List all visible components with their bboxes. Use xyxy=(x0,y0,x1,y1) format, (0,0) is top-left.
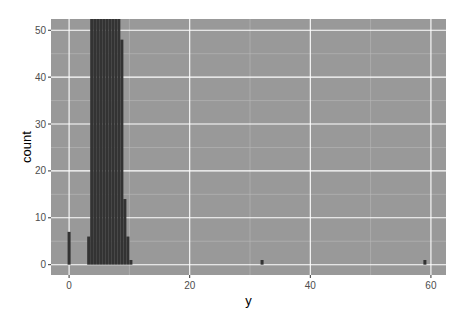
histogram-bar xyxy=(68,232,71,265)
x-tick-label: 20 xyxy=(184,280,196,291)
x-tick-label: 0 xyxy=(66,280,72,291)
y-tick-label: 10 xyxy=(35,212,47,223)
histogram-bar xyxy=(117,19,120,265)
y-tick-label: 40 xyxy=(35,72,47,83)
histogram-bar xyxy=(99,19,102,265)
x-tick-label: 60 xyxy=(425,280,437,291)
histogram-bar xyxy=(123,199,126,265)
y-axis: 01020304050 xyxy=(35,25,51,270)
x-tick-label: 40 xyxy=(305,280,317,291)
histogram-bar xyxy=(93,19,96,265)
y-tick-label: 20 xyxy=(35,165,47,176)
histogram-bar xyxy=(105,19,108,265)
histogram-bar xyxy=(261,260,264,265)
y-tick-label: 30 xyxy=(35,119,47,130)
histogram-chart: 0204060 01020304050 y count xyxy=(0,0,464,326)
histogram-bar xyxy=(120,40,123,265)
histogram-bar xyxy=(126,237,129,265)
histogram-bar xyxy=(96,19,99,265)
y-axis-title: count xyxy=(19,131,34,163)
x-axis-title: y xyxy=(245,293,252,308)
histogram-bar xyxy=(90,19,93,265)
y-tick-label: 0 xyxy=(40,259,46,270)
histogram-bar xyxy=(114,19,117,265)
histogram-bar xyxy=(102,19,105,265)
y-tick-label: 50 xyxy=(35,25,47,36)
histogram-bar xyxy=(129,260,132,265)
histogram-bar xyxy=(87,237,90,265)
histogram-bar xyxy=(108,19,111,265)
histogram-bar xyxy=(111,19,114,265)
histogram-bar xyxy=(423,260,426,265)
x-axis: 0204060 xyxy=(66,275,437,291)
